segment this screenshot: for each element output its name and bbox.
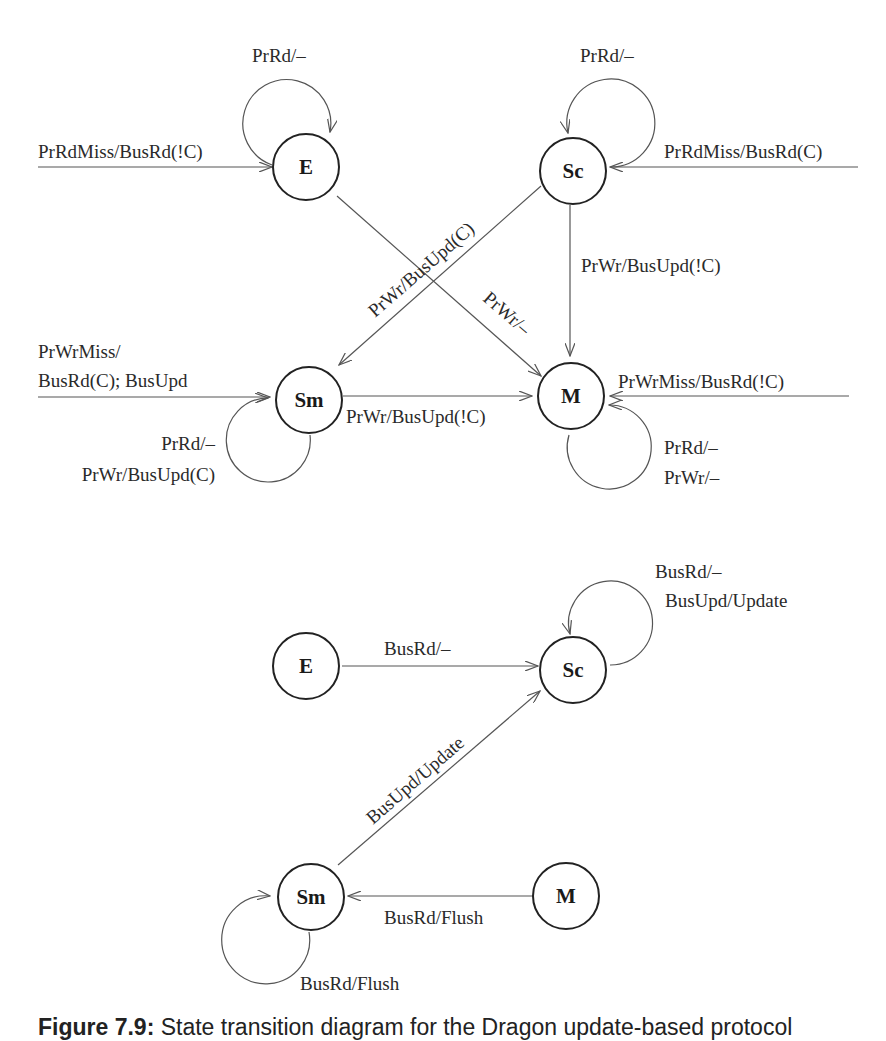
state-node-m: M (538, 363, 604, 429)
label-bus-sm-self: BusRd/Flush (300, 973, 400, 994)
label-sm-self-2: PrWr/BusUpd(C) (82, 464, 215, 486)
bus-state-label-sm: Sm (296, 885, 326, 909)
label-sm-self-1: PrRd/– (161, 433, 215, 454)
bus-state-node-m: M (533, 863, 599, 929)
bus-state-node-sc: Sc (540, 637, 606, 703)
label-sc-incoming: PrRdMiss/BusRd(C) (664, 141, 822, 163)
label-bus-sc-self-1: BusRd/– (655, 561, 722, 582)
edge-sc-to-sm (339, 186, 541, 365)
bus-state-node-e: E (273, 633, 339, 699)
state-node-sc: Sc (540, 138, 606, 204)
top-diagram: PrRd/– PrRdMiss/BusRd(!C) PrRd/– PrRdMis… (38, 45, 858, 489)
label-sc-self: PrRd/– (580, 45, 634, 66)
state-node-e: E (273, 134, 339, 200)
label-e-incoming: PrRdMiss/BusRd(!C) (38, 141, 203, 163)
state-label-m: M (561, 384, 581, 408)
state-label-sm: Sm (294, 388, 324, 412)
label-sc-to-m: PrWr/BusUpd(!C) (581, 255, 721, 277)
label-sm-incoming-2: BusRd(C); BusUpd (38, 370, 188, 392)
label-bus-m-to-sm: BusRd/Flush (384, 907, 484, 928)
edge-e-to-m (337, 196, 541, 376)
label-m-incoming: PrWrMiss/BusRd(!C) (618, 371, 784, 393)
label-bus-sc-self-2: BusUpd/Update (665, 590, 787, 611)
label-m-self-1: PrRd/– (664, 437, 718, 458)
bus-state-node-sm: Sm (278, 864, 344, 930)
figure-number: Figure 7.9: (38, 1014, 154, 1040)
bus-state-label-sc: Sc (563, 658, 584, 682)
bus-state-label-e: E (299, 654, 313, 678)
bottom-diagram: BusRd/– BusUpd/Update BusRd/– BusUpd/Upd… (222, 561, 788, 994)
label-e-to-m: PrWr/– (479, 287, 535, 339)
label-m-self-2: PrWr/– (664, 467, 720, 488)
figure-caption-text: State transition diagram for the Dragon … (161, 1014, 793, 1040)
label-sm-to-m: PrWr/BusUpd(!C) (346, 406, 486, 428)
label-bus-e-to-sc: BusRd/– (384, 638, 451, 659)
state-node-sm: Sm (276, 367, 342, 433)
state-label-e: E (299, 155, 313, 179)
bus-state-label-m: M (556, 884, 576, 908)
state-label-sc: Sc (563, 159, 584, 183)
label-sm-incoming-1: PrWrMiss/ (38, 341, 121, 362)
figure-caption: Figure 7.9: State transition diagram for… (38, 1014, 792, 1041)
label-bus-sm-to-sc: BusUpd/Update (362, 732, 468, 828)
edge-bus-sm-to-sc (338, 691, 540, 865)
label-e-self: PrRd/– (252, 45, 306, 66)
